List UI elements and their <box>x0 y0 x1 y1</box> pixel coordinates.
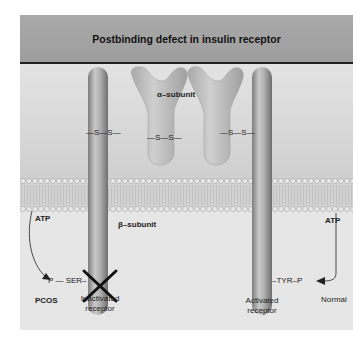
pcos-label: PCOS <box>35 297 58 305</box>
phospho-serine-label: P — SER– <box>48 277 87 285</box>
beta-subunit-right <box>252 67 272 315</box>
alpha-subunit-right <box>188 67 243 165</box>
tyrosine-phosphate-label: –TYR–P <box>272 277 302 285</box>
alpha-subunit-label: α–subunit <box>157 91 195 99</box>
disulfide-bond-middle: —S—S— <box>147 134 182 142</box>
atp-label-left: ATP <box>35 215 50 223</box>
disulfide-bond-right: —S—S— <box>220 129 255 137</box>
diagram-frame: Postbinding defect in insulin receptor <box>20 15 353 330</box>
activated-receptor-label: Activated receptor <box>234 297 290 315</box>
cell-membrane <box>20 178 353 211</box>
beta-subunit-label: β–subunit <box>118 221 156 229</box>
alpha-subunit-left <box>131 67 187 165</box>
atp-label-right: ATP <box>325 217 340 225</box>
normal-label: Normal <box>321 296 347 304</box>
disulfide-bond-left: —S—S— <box>86 129 121 137</box>
inactivated-receptor-label: Inactivated receptor <box>72 295 128 313</box>
